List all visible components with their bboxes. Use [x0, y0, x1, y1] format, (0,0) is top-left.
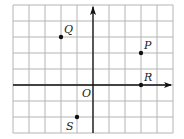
point-label: S [66, 120, 74, 133]
point-label: R [143, 71, 152, 84]
origin-label: O [82, 87, 91, 100]
point-dot [139, 51, 143, 55]
coordinate-plane-figure: O QPRS [0, 0, 184, 139]
point-dot [139, 83, 143, 87]
point-dot [59, 35, 63, 39]
point-label: Q [64, 23, 73, 36]
point-dot [75, 115, 79, 119]
point-label: P [143, 39, 152, 52]
